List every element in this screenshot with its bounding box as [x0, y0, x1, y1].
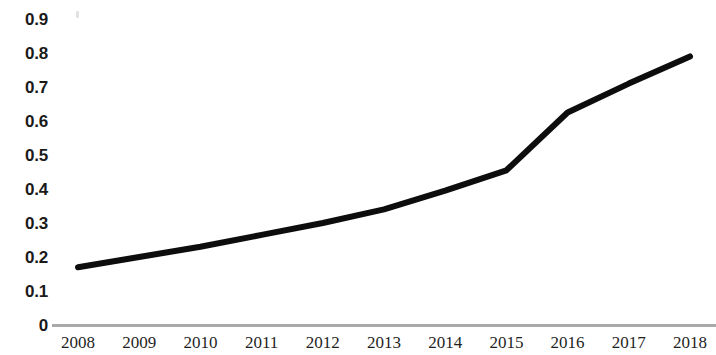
x-tick-label: 2011 — [245, 334, 278, 351]
x-tick-label: 2015 — [489, 334, 523, 351]
x-tick-label: 2008 — [61, 334, 95, 351]
x-tick-label: 2017 — [612, 334, 646, 351]
x-tick-label: 2014 — [428, 334, 462, 351]
x-tick-label: 2012 — [306, 334, 340, 351]
x-axis-line — [52, 324, 716, 327]
x-axis: 2008200920102011201220132014201520162017… — [0, 334, 716, 355]
x-tick-label: 2010 — [183, 334, 217, 351]
x-tick-label: 2018 — [673, 334, 707, 351]
x-tick-label: 2016 — [551, 334, 585, 351]
data-series-line — [78, 56, 690, 267]
line-chart: 0.90.80.70.60.50.40.30.20.10 20082009201… — [0, 0, 716, 355]
plot-area — [0, 0, 716, 355]
x-tick-label: 2013 — [367, 334, 401, 351]
x-tick-label: 2009 — [122, 334, 156, 351]
